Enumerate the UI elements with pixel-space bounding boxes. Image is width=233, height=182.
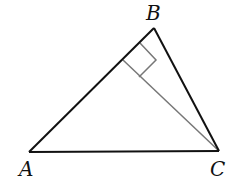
side-bc: [154, 28, 219, 151]
vertex-label-c: C: [210, 157, 225, 181]
altitude-line: [123, 60, 219, 151]
triangle-diagram: A B C: [0, 0, 233, 182]
right-angle-marker: [139, 43, 156, 77]
vertex-label-a: A: [17, 157, 33, 181]
vertex-label-b: B: [145, 1, 161, 25]
side-ab: [29, 28, 154, 152]
side-ca: [29, 151, 219, 152]
